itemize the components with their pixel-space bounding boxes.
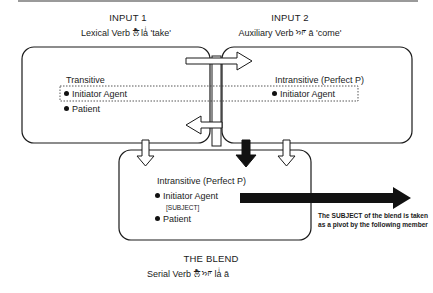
input1-title: INPUT 1 [109,12,147,23]
bullet-icon [155,193,160,198]
blend-subtitle: Serial Verb ਲੈ ਆ laͥ ā [147,269,229,280]
diagram-shapes [0,0,433,293]
input1-subtitle: Lexical Verb ਲੈ laͥ 'take' [81,28,171,39]
input2-title: INPUT 2 [271,12,309,23]
blend-item: Patient [155,214,191,224]
input2-subtitle: Auxiliary Verb ਆ ā 'come' [239,28,342,39]
bullet-icon [64,106,69,111]
input1-item: Patient [64,104,100,114]
bullet-icon [64,91,69,96]
blend-item: Initiator Agent [155,191,218,201]
blend-subject-tag: [SUBJECT] [166,204,199,211]
pivot-annotation: The SUBJECT of the blend is taken as a p… [318,212,428,229]
input2-item: Initiator Agent [272,89,335,99]
bullet-icon [155,216,160,221]
input1-item: Initiator Agent [64,89,127,99]
blend-title: THE BLEND [183,253,238,264]
bullet-icon [272,91,277,96]
input2-frame-label: Intransitive (Perfect P) [275,75,364,85]
blend-frame-label: Intransitive (Perfect P) [157,176,246,186]
input1-frame-label: Transitive [66,75,105,85]
